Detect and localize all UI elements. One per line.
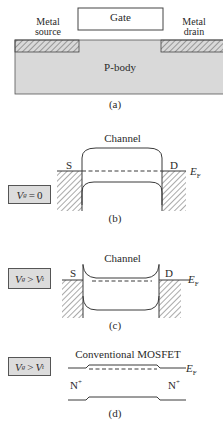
caption-d: (d) xyxy=(100,408,130,419)
caption-b: (b) xyxy=(100,213,130,224)
condition-box-c: Vg>Vt xyxy=(8,268,51,289)
metal-source-label-line2: source xyxy=(28,27,68,37)
valence-band xyxy=(83,296,159,310)
fermi-label-b: EF xyxy=(190,166,201,180)
source-hatch xyxy=(62,280,83,318)
conduction-band xyxy=(82,148,162,211)
valence-band xyxy=(82,182,162,205)
channel-label-b: Channel xyxy=(95,133,150,144)
source-label-b: S xyxy=(66,160,72,171)
conventional-mosfet-label: Conventional MOSFET xyxy=(68,349,188,360)
panel-b-band-diagram xyxy=(57,148,186,211)
p-body-label: P-body xyxy=(90,62,150,73)
drain-label-c: D xyxy=(165,268,173,279)
caption-c: (c) xyxy=(100,320,130,331)
metal-drain-contact xyxy=(161,40,223,52)
drain-hatch xyxy=(162,171,186,211)
valence-band xyxy=(68,397,186,400)
channel-label-c: Channel xyxy=(95,253,150,264)
drain-hatch xyxy=(159,280,181,318)
fermi-label-d: EF xyxy=(186,363,197,377)
conduction-band xyxy=(68,365,186,368)
condition-box-b: Vg=0 xyxy=(8,185,51,204)
n-plus-source-label: N+ xyxy=(70,379,82,391)
source-label-c: S xyxy=(70,268,76,279)
caption-a: (a) xyxy=(100,99,130,110)
metal-source-contact xyxy=(15,40,79,52)
conduction-band xyxy=(83,265,159,278)
source-hatch xyxy=(57,171,82,211)
fermi-label-c: EF xyxy=(188,274,199,288)
n-plus-drain-label: N+ xyxy=(168,379,180,391)
condition-box-d: Vg>Vt xyxy=(8,357,51,376)
drain-label-b: D xyxy=(170,160,178,171)
gate-label: Gate xyxy=(78,12,163,23)
metal-drain-label-line2: drain xyxy=(176,27,212,37)
